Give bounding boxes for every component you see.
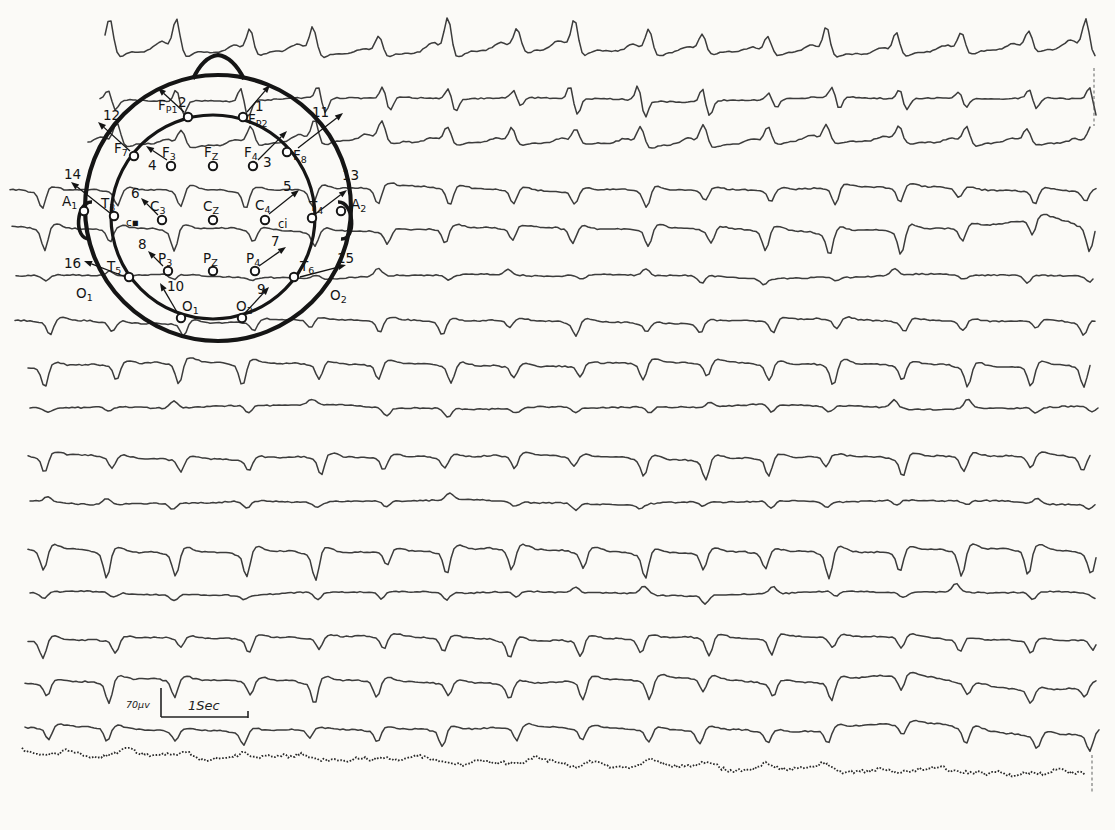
calibration-scale: 70μv1Sec bbox=[126, 688, 248, 718]
channel-number-label-5: 5 bbox=[283, 178, 292, 194]
electrode-label-O2: O2 bbox=[236, 298, 253, 316]
electrode-marker-Fp1 bbox=[184, 113, 192, 121]
electrode-label-A1: A1 bbox=[62, 193, 77, 211]
amplitude-scale-label: 70μv bbox=[126, 699, 150, 710]
electrode-label-F3: F3 bbox=[162, 144, 176, 162]
time-scale-label: 1Sec bbox=[188, 698, 220, 713]
electrode-marker-T3 bbox=[110, 212, 118, 220]
channel-number-label-3: 3 bbox=[263, 154, 272, 170]
eeg-trace-ch12-F7 bbox=[28, 544, 1096, 580]
electrode-label-T6: T6 bbox=[299, 258, 314, 276]
electrode-marker-F8 bbox=[283, 148, 291, 156]
electrode-marker-A2 bbox=[337, 207, 345, 215]
electrode-label-F8: F8 bbox=[293, 147, 307, 165]
outer-label-O2: O2 bbox=[330, 287, 347, 305]
electrode-marker-T4 bbox=[308, 214, 316, 222]
eeg-trace-ch14-T3 bbox=[28, 634, 1096, 659]
channel-number-label-7: 7 bbox=[271, 233, 280, 249]
electrode-label-T4: T4 bbox=[308, 198, 323, 216]
eeg-trace-ch8-P3 bbox=[28, 358, 1090, 387]
electrode-marker-P4 bbox=[251, 267, 259, 275]
electrode-label-Fz: FZ bbox=[204, 144, 219, 162]
electrode-label-C3: C3 bbox=[150, 198, 165, 216]
electrode-marker-T5 bbox=[125, 273, 133, 281]
electrode-label-Cz: CZ bbox=[203, 198, 219, 216]
electrode-label-P3: P3 bbox=[158, 250, 172, 268]
channel-number-label-4: 4 bbox=[148, 157, 157, 173]
electrode-marker-Fz bbox=[209, 162, 217, 170]
electrode-label-F4: F4 bbox=[244, 144, 258, 162]
electrode-marker-F7 bbox=[130, 152, 138, 160]
eeg-figure-page: 12345678910111213141516FP1FP2F7F3FZF4F8A… bbox=[0, 0, 1115, 830]
electrode-label-P4: P4 bbox=[246, 250, 260, 268]
electrode-marker-C3 bbox=[158, 216, 166, 224]
electrode-label-C4: C4 bbox=[255, 197, 270, 215]
eeg-trace-ch9-O2 bbox=[30, 400, 1098, 418]
electrode-label-T5: T5 bbox=[106, 258, 121, 276]
annotation-label-c-square: c▪ bbox=[126, 216, 139, 228]
eeg-trace-ch3-F4 bbox=[88, 121, 1090, 148]
electrode-marker-C4 bbox=[261, 216, 269, 224]
channel-arrow-head-13 bbox=[339, 190, 347, 197]
channel-number-label-9: 9 bbox=[257, 281, 266, 297]
eeg-trace-ch10-O1 bbox=[28, 452, 1090, 480]
channel-arrow-head-16 bbox=[84, 261, 93, 267]
eeg-trace-ch1-Fp2 bbox=[105, 18, 1095, 58]
electrode-marker-A1 bbox=[80, 207, 88, 215]
marker-channel-trace bbox=[22, 748, 1085, 777]
channel-number-label-15: 15 bbox=[337, 250, 354, 266]
channel-arrow-line-7 bbox=[259, 252, 279, 266]
channel-number-label-8: 8 bbox=[138, 236, 147, 252]
channel-number-label-11: 11 bbox=[312, 104, 329, 120]
annotation-label-ci: ci bbox=[278, 217, 288, 231]
electrode-marker-F4 bbox=[249, 162, 257, 170]
channel-arrow-line-5 bbox=[269, 195, 293, 214]
channel-arrow-head-10 bbox=[160, 283, 167, 292]
eeg-trace-ch5-C4 bbox=[12, 214, 1095, 254]
electrode-marker-Pz bbox=[209, 267, 217, 275]
outer-label-O1: O1 bbox=[76, 285, 93, 303]
electrode-marker-Fp2 bbox=[239, 113, 247, 121]
electrode-marker-F3 bbox=[167, 162, 175, 170]
eeg-trace-ch4-F3 bbox=[10, 183, 1096, 208]
electrode-marker-Cz bbox=[209, 216, 217, 224]
channel-number-label-1: 1 bbox=[255, 98, 264, 114]
electrode-marker-T6 bbox=[290, 273, 298, 281]
channel-number-label-6: 6 bbox=[131, 185, 140, 201]
eeg-recording-figure: 12345678910111213141516FP1FP2F7F3FZF4F8A… bbox=[0, 0, 1115, 830]
eeg-trace-ch15-T6 bbox=[25, 673, 1096, 704]
eeg-trace-ch11-F8 bbox=[30, 493, 1095, 510]
electrode-label-Fp1: FP1 bbox=[158, 97, 178, 115]
channel-number-label-10: 10 bbox=[167, 278, 184, 294]
electrode-label-O1: O1 bbox=[182, 298, 199, 316]
channel-arrow-head-11 bbox=[335, 113, 343, 120]
eeg-trace-ch13-T4 bbox=[30, 584, 1095, 605]
electrode-label-F7: F7 bbox=[114, 140, 128, 158]
channel-number-label-13: 13 bbox=[342, 167, 359, 183]
electrode-marker-P3 bbox=[164, 267, 172, 275]
electrode-marker-O1 bbox=[177, 314, 185, 322]
channel-number-label-16: 16 bbox=[64, 255, 81, 271]
eeg-traces bbox=[10, 18, 1099, 777]
channel-arrow-head-4 bbox=[146, 146, 154, 153]
channel-number-label-12: 12 bbox=[103, 107, 120, 123]
eeg-trace-ch16-T5 bbox=[25, 720, 1099, 751]
electrode-label-Pz: PZ bbox=[203, 250, 218, 268]
electrode-label-A2: A2 bbox=[351, 196, 366, 214]
electrode-marker-O2 bbox=[238, 314, 246, 322]
channel-number-label-2: 2 bbox=[178, 94, 187, 110]
channel-number-label-14: 14 bbox=[64, 166, 81, 182]
